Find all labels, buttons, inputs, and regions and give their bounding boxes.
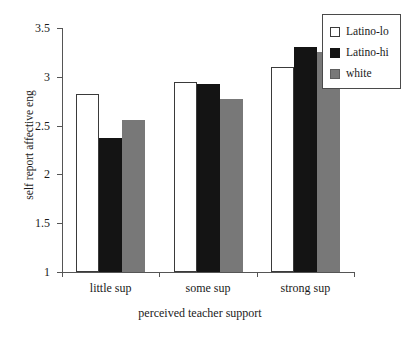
x-tick-mark <box>159 272 160 277</box>
bar-latino-lo-some-sup <box>174 82 197 272</box>
x-tick-mark <box>257 272 258 277</box>
legend-swatch-icon <box>330 27 340 37</box>
x-category-label: strong sup <box>280 281 330 296</box>
y-axis-title: self report affective eng <box>20 25 38 265</box>
legend-item: Latino-hi <box>330 42 400 63</box>
bar-white-little-sup <box>122 120 145 272</box>
bar-latino-hi-some-sup <box>197 84 220 272</box>
legend-swatch-icon <box>330 48 340 58</box>
legend-item-label: Latino-hi <box>346 47 389 59</box>
bar-chart: 11.522.533.5 little supsome supstrong su… <box>0 0 414 339</box>
legend-item: Latino-lo <box>330 21 400 42</box>
legend-item: white <box>330 63 400 84</box>
x-category-label: little sup <box>90 281 132 296</box>
bars-layer <box>62 28 354 272</box>
bar-white-some-sup <box>220 99 243 272</box>
legend-item-label: Latino-lo <box>346 26 389 38</box>
x-axis-title: perceived teacher support <box>60 306 340 321</box>
legend-item-label: white <box>346 68 372 80</box>
legend: Latino-loLatino-hiwhite <box>322 14 401 89</box>
x-category-label: some sup <box>186 281 231 296</box>
bar-latino-hi-little-sup <box>99 138 122 272</box>
legend-swatch-icon <box>330 69 340 79</box>
x-tick-mark <box>62 272 63 277</box>
bar-latino-lo-strong-sup <box>271 67 294 272</box>
x-axis-line <box>62 272 354 273</box>
x-tick-mark <box>354 272 355 277</box>
y-tick-label: 1 <box>0 266 50 278</box>
bar-latino-hi-strong-sup <box>294 47 317 272</box>
bar-latino-lo-little-sup <box>76 94 99 272</box>
